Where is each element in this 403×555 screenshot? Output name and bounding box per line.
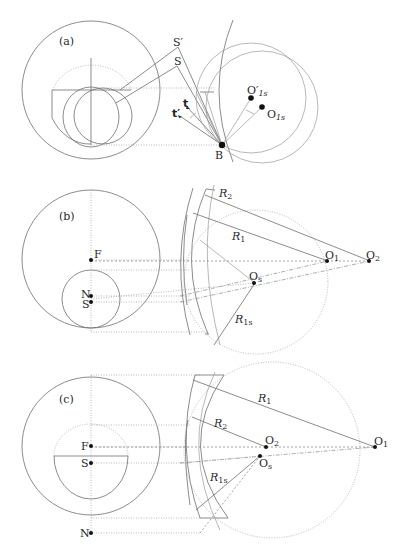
point-S [89,461,93,465]
label-B: B [215,149,223,162]
point-F [89,444,93,448]
panel-label: (c) [59,393,74,406]
radius-R2 [192,417,266,447]
radius-R1s [196,456,260,510]
dashed-arc [53,65,131,90]
point-B [219,142,225,148]
point-F [89,258,93,262]
label-R2: R2 [218,187,232,201]
panel-label: (a) [59,35,74,48]
panel-b: (b) F N S O1 O2 Os R2 R1 R1s [22,185,380,354]
label-F: F [81,440,89,453]
label-Os: Os [249,270,262,284]
label-R1: R1 [231,230,245,244]
mirror-arc [219,20,233,162]
label-O1: O1 [325,249,339,263]
label-N: N [80,527,90,540]
label-S-prime: S′ [173,36,184,49]
radius-R1 [193,380,375,447]
optics-diagram: (a) S′ S t t′ B O′1s O1s [0,0,403,555]
panel-label: (b) [59,210,75,223]
label-R2: R2 [213,417,227,431]
label-Os: Os [259,457,272,471]
label-S: S [82,298,90,311]
label-O1s: O1s [267,108,285,122]
dotted-circle [184,362,360,538]
label-t-prime: t′ [172,107,180,120]
panel-a: (a) S′ S t t′ B O′1s O1s [22,20,318,163]
point-O1s [259,104,265,110]
label-O2: O2 [265,434,279,448]
radius-R1 [193,213,328,261]
label-S: S [81,457,89,470]
label-R1: R1 [257,392,271,406]
panel-c: (c) F S N O1 O2 Os R1 R2 R1s [22,362,388,540]
label-R1s: R1s [209,471,228,485]
label-O1s-prime: O′1s [247,84,268,98]
lens-outer-arc [191,189,208,334]
label-S: S [174,55,182,68]
label-O1: O1 [374,435,388,449]
label-F: F [94,248,102,261]
label-t: t [183,97,188,110]
radius-R2 [205,195,370,261]
label-R1s: R1s [234,313,253,327]
label-O2: O2 [366,249,380,263]
